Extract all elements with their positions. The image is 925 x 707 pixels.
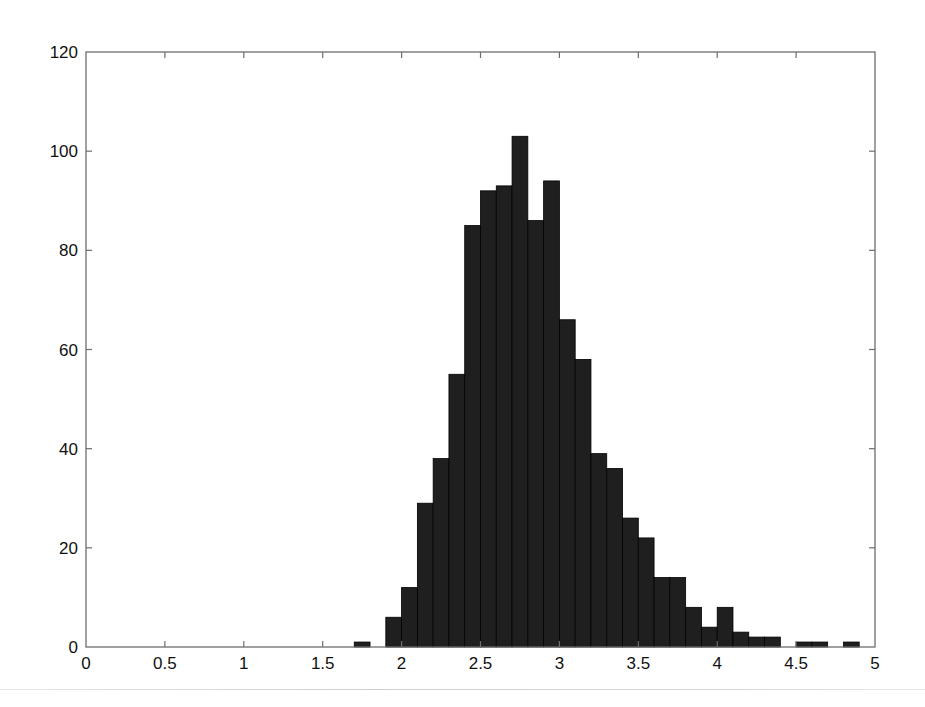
x-tick-label: 2 xyxy=(397,654,406,673)
histogram-bar xyxy=(465,226,481,647)
x-tick-label: 3 xyxy=(555,654,564,673)
x-tick-label: 2.5 xyxy=(469,654,493,673)
histogram-bars xyxy=(354,136,859,647)
histogram-bar xyxy=(417,503,433,647)
x-tick-label: 5 xyxy=(870,654,879,673)
histogram-bar xyxy=(638,538,654,647)
y-tick-label: 20 xyxy=(59,539,78,558)
histogram-bar xyxy=(512,136,528,647)
histogram-bar xyxy=(559,320,575,647)
histogram-bar xyxy=(843,642,859,647)
y-tick-label: 80 xyxy=(59,241,78,260)
histogram-bar xyxy=(733,632,749,647)
histogram-bar xyxy=(623,518,639,647)
x-axis-tick-labels: 00.511.522.533.544.55 xyxy=(81,654,879,673)
y-tick-label: 40 xyxy=(59,440,78,459)
histogram-bar xyxy=(575,359,591,647)
scan-divider-line xyxy=(0,689,925,690)
x-tick-label: 0.5 xyxy=(153,654,177,673)
x-tick-label: 4 xyxy=(712,654,721,673)
x-tick-label: 1.5 xyxy=(311,654,335,673)
y-tick-label: 0 xyxy=(69,638,78,657)
histogram-bar xyxy=(433,459,449,647)
x-tick-label: 3.5 xyxy=(626,654,650,673)
histogram-bar xyxy=(354,642,370,647)
y-tick-label: 100 xyxy=(50,142,78,161)
histogram-bar xyxy=(544,181,560,647)
histogram-chart: 00.511.522.533.544.55 020406080100120 xyxy=(0,0,925,707)
y-tick-label: 120 xyxy=(50,43,78,62)
histogram-bar xyxy=(449,374,465,647)
histogram-bar xyxy=(496,186,512,647)
y-axis-tick-labels: 020406080100120 xyxy=(50,43,78,657)
x-tick-label: 4.5 xyxy=(784,654,808,673)
histogram-bar xyxy=(654,578,670,647)
histogram-bar xyxy=(765,637,781,647)
histogram-bar xyxy=(386,617,402,647)
histogram-bar xyxy=(796,642,812,647)
histogram-bar xyxy=(607,469,623,648)
y-tick-label: 60 xyxy=(59,341,78,360)
histogram-bar xyxy=(591,454,607,647)
x-tick-label: 1 xyxy=(239,654,248,673)
histogram-bar xyxy=(701,627,717,647)
histogram-bar xyxy=(717,607,733,647)
histogram-bar xyxy=(402,588,418,648)
histogram-bar xyxy=(812,642,828,647)
histogram-bar xyxy=(481,191,497,647)
histogram-bar xyxy=(749,637,765,647)
histogram-bar xyxy=(686,607,702,647)
histogram-bar xyxy=(670,578,686,647)
histogram-bar xyxy=(528,221,544,647)
x-tick-label: 0 xyxy=(81,654,90,673)
